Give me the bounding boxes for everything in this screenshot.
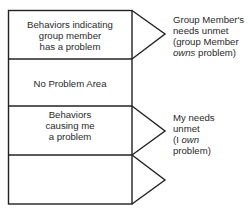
row-text-line: Behaviors: [45, 109, 94, 120]
row-empty-bottom: [9, 156, 131, 204]
annotation-line: Group Member's: [173, 14, 244, 25]
annotation-line: problem): [173, 145, 215, 156]
annotation-line: (group Member: [173, 36, 244, 47]
row-text-line: causing me: [45, 120, 94, 131]
row-text-line: has a problem: [27, 41, 113, 52]
annotation-line: unmet: [173, 123, 215, 134]
annotation-group-member-needs: Group Member's needs unmet (group Member…: [173, 14, 244, 58]
annotation-my-needs: My needs unmet (I own problem): [173, 112, 215, 156]
annotation-line: My needs: [173, 112, 215, 123]
row-no-problem-area: No Problem Area: [9, 60, 131, 106]
emphasis-text: owns: [173, 47, 195, 58]
row-text-line: No Problem Area: [33, 78, 106, 89]
annotation-text: problem): [195, 47, 236, 58]
annotation-text: (I: [173, 134, 182, 145]
row-text-line: Behaviors indicating: [27, 19, 113, 30]
annotation-line: owns problem): [173, 47, 244, 58]
emphasis-text: own: [182, 134, 200, 145]
annotation-line: needs unmet: [173, 25, 244, 36]
annotation-line: (I own: [173, 134, 215, 145]
row-group-member-problem: Behaviors indicating group member has a …: [9, 11, 131, 59]
row-causing-me-problem: Behaviors causing me a problem: [9, 107, 131, 153]
row-text-line: a problem: [45, 131, 94, 142]
row-text-line: group member: [27, 30, 113, 41]
